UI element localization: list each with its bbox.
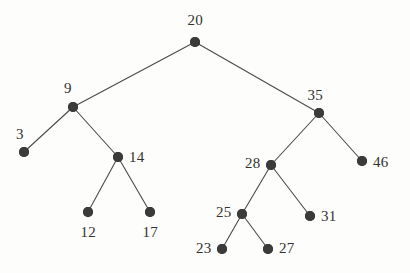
tree-edge-9-3 bbox=[24, 107, 73, 152]
tree-node-31[interactable] bbox=[305, 211, 315, 221]
tree-node-9[interactable] bbox=[68, 102, 78, 112]
tree-edge-35-46 bbox=[319, 113, 362, 161]
tree-node-label-25: 25 bbox=[216, 205, 231, 220]
tree-edge-14-17 bbox=[118, 157, 150, 212]
tree-node-27[interactable] bbox=[263, 244, 273, 254]
tree-node-23[interactable] bbox=[217, 244, 227, 254]
tree-node-20[interactable] bbox=[190, 37, 200, 47]
tree-edge-20-35 bbox=[195, 42, 319, 113]
tree-edge-9-14 bbox=[73, 107, 118, 157]
tree-node-label-23: 23 bbox=[196, 241, 211, 256]
tree-node-label-27: 27 bbox=[279, 241, 294, 256]
tree-node-label-12: 12 bbox=[81, 225, 96, 240]
tree-node-14[interactable] bbox=[113, 152, 123, 162]
tree-node-label-28: 28 bbox=[245, 156, 260, 171]
tree-node-17[interactable] bbox=[145, 207, 155, 217]
tree-edge-28-31 bbox=[271, 165, 310, 216]
tree-node-label-20: 20 bbox=[188, 13, 203, 28]
tree-edge-28-25 bbox=[242, 165, 271, 214]
tree-node-46[interactable] bbox=[357, 156, 367, 166]
tree-node-28[interactable] bbox=[266, 160, 276, 170]
tree-node-12[interactable] bbox=[83, 207, 93, 217]
tree-node-35[interactable] bbox=[314, 108, 324, 118]
tree-node-25[interactable] bbox=[237, 209, 247, 219]
tree-node-label-3: 3 bbox=[16, 127, 24, 142]
tree-edge-20-9 bbox=[73, 42, 195, 107]
binary-tree-figure: 209353142846121725312327 bbox=[0, 0, 410, 273]
tree-edge-25-27 bbox=[242, 214, 268, 249]
tree-edge-14-12 bbox=[88, 157, 118, 212]
tree-node-label-14: 14 bbox=[129, 150, 144, 165]
tree-edge-35-28 bbox=[271, 113, 319, 165]
tree-node-3[interactable] bbox=[19, 147, 29, 157]
tree-node-label-31: 31 bbox=[321, 209, 336, 224]
tree-node-label-46: 46 bbox=[373, 155, 388, 170]
tree-node-label-35: 35 bbox=[308, 88, 323, 103]
tree-node-label-17: 17 bbox=[143, 225, 158, 240]
tree-node-label-9: 9 bbox=[64, 81, 72, 96]
tree-edges-canvas bbox=[0, 0, 410, 273]
